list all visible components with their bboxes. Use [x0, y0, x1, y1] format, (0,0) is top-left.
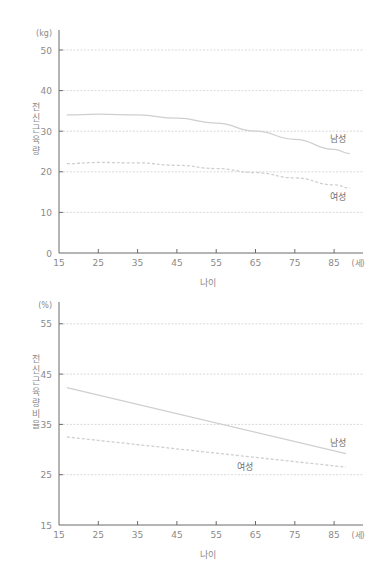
male-label: 남성 [330, 438, 346, 448]
muscle-ratio-chart: 1525354555(%)1525354555657585(세)나이남성여성 전… [0, 290, 383, 581]
female-label: 여성 [330, 191, 346, 202]
y-tick-label: 55 [41, 319, 52, 329]
female-label: 여성 [237, 461, 253, 472]
x-tick-label: 35 [132, 258, 143, 268]
y-axis-title: 전신 근육량 비율 [30, 354, 42, 431]
x-tick-label: 85 [328, 258, 339, 268]
muscle-ratio-plot: 1525354555(%)1525354555657585(세)나이남성여성 [0, 290, 383, 581]
x-tick-label: 55 [210, 258, 221, 268]
y-axis-title: 전신 근육량 [30, 102, 42, 157]
x-tick-label: 55 [210, 530, 221, 540]
x-tick-label: 15 [53, 258, 64, 268]
x-tick-label: 45 [171, 258, 182, 268]
x-unit-label: (세) [351, 531, 364, 540]
y-tick-label: 10 [41, 208, 53, 218]
y-unit-label: (kg) [36, 29, 52, 38]
y-tick-label: 0 [46, 249, 52, 259]
y-tick-label: 20 [41, 167, 53, 177]
x-unit-label: (세) [351, 259, 364, 268]
y-tick-label: 30 [41, 127, 53, 137]
x-tick-label: 35 [132, 530, 143, 540]
y-tick-label: 45 [41, 370, 52, 380]
x-tick-label: 65 [250, 530, 261, 540]
x-tick-label: 85 [328, 530, 339, 540]
y-tick-label: 40 [41, 86, 53, 96]
male-label: 남성 [330, 134, 346, 144]
female-series-line [67, 162, 350, 188]
x-tick-label: 15 [53, 530, 64, 540]
y-tick-label: 25 [41, 470, 52, 480]
female-series-line [67, 437, 346, 467]
x-axis-title: 나이 [200, 550, 216, 560]
muscle-mass-plot: 01020304050(kg)1525354555657585(세)나이남성여성 [0, 0, 383, 290]
x-tick-label: 25 [93, 530, 104, 540]
x-axis-title: 나이 [200, 278, 216, 288]
x-tick-label: 25 [93, 258, 104, 268]
male-series-line [67, 114, 350, 153]
muscle-mass-chart: 01020304050(kg)1525354555657585(세)나이남성여성… [0, 0, 383, 290]
y-tick-label: 50 [41, 46, 53, 56]
x-tick-label: 75 [289, 258, 300, 268]
y-tick-label: 35 [41, 420, 52, 430]
x-tick-label: 75 [289, 530, 300, 540]
x-tick-label: 45 [171, 530, 182, 540]
x-tick-label: 65 [250, 258, 261, 268]
y-tick-label: 15 [41, 521, 52, 531]
male-series-line [67, 388, 346, 454]
y-unit-label: (%) [38, 301, 52, 310]
